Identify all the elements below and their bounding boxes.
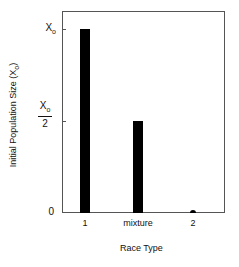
bar-race-2 (190, 210, 196, 213)
y-tick-label-half: Xo 2 (38, 100, 52, 129)
y-tick-half (62, 121, 66, 122)
y-axis-title-text: Initial Population Size (X (8, 70, 18, 168)
y-tick-label-zero: 0 (30, 206, 54, 217)
y-axis-title: Initial Population Size (Xo) (8, 63, 20, 167)
fraction-line (38, 116, 52, 117)
y-tick-label-x0-sub: o (52, 28, 56, 35)
bar-race-1 (80, 29, 90, 213)
x-tick-label-2: 2 (168, 218, 218, 228)
bar-mixture (133, 121, 143, 213)
x-tick-label-1: 1 (60, 218, 110, 228)
x-tick-label-mixture: mixture (113, 218, 163, 228)
x-axis-title: Race Type (120, 243, 163, 253)
y-tick-label-x0: Xo (32, 22, 56, 35)
y-tick-label-half-sub: o (46, 106, 50, 113)
y-tick-label-half-den: 2 (38, 118, 52, 129)
y-axis-title-sub: o (13, 66, 20, 70)
y-axis-title-end: ) (8, 63, 18, 66)
y-tick-x0 (62, 29, 66, 30)
